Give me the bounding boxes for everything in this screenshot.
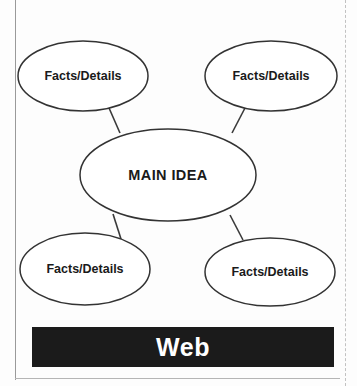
connector-top-left-line	[109, 108, 120, 133]
connector-top-right-line	[232, 108, 245, 133]
connector-bottom-right-line	[230, 215, 243, 240]
main-idea-label: MAIN IDEA	[128, 167, 207, 183]
facts-details-bottom-right-label: Facts/Details	[231, 265, 308, 279]
facts-details-top-right-label: Facts/Details	[232, 69, 309, 83]
node-facts-details-top-left[interactable]: Facts/Details	[18, 41, 148, 111]
worksheet-page: Facts/Details Facts/Details MAIN IDEA Fa…	[0, 0, 357, 386]
node-facts-details-top-right[interactable]: Facts/Details	[205, 41, 337, 111]
organizer-title-label: Web	[156, 335, 210, 360]
organizer-title-bar: Web	[32, 327, 334, 367]
node-main-idea[interactable]: MAIN IDEA	[80, 129, 256, 221]
facts-details-bottom-left-label: Facts/Details	[46, 262, 123, 276]
node-facts-details-bottom-right[interactable]: Facts/Details	[205, 238, 335, 306]
node-facts-details-bottom-left[interactable]: Facts/Details	[20, 233, 150, 305]
connector-bottom-left-line	[113, 214, 121, 239]
facts-details-top-left-label: Facts/Details	[44, 69, 121, 83]
